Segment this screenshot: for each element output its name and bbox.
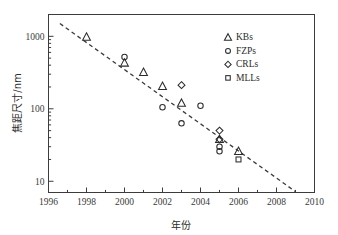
legend-label-kbs: KBs <box>236 32 253 42</box>
chart-figure: 101001000 199619982000200220042006200820… <box>0 0 338 235</box>
legend-label-mlls: MLLs <box>236 73 260 83</box>
x-tick-label: 2000 <box>115 197 134 207</box>
legend-label-fzps: FZPs <box>236 46 256 56</box>
scatter-plot: 101001000 199619982000200220042006200820… <box>0 0 338 235</box>
y-tick-label: 10 <box>35 177 45 187</box>
x-tick-label: 2008 <box>267 197 286 207</box>
x-tick-label: 1996 <box>39 197 58 207</box>
x-tick-label: 1998 <box>77 197 96 207</box>
y-tick-label: 1000 <box>26 32 45 42</box>
y-axis-title: 焦距尺寸/nm <box>11 73 23 132</box>
x-tick-label: 2006 <box>229 197 248 207</box>
y-tick-label: 100 <box>30 104 45 114</box>
legend-label-crls: CRLs <box>236 59 258 69</box>
x-tick-label: 2010 <box>305 197 324 207</box>
x-axis-title: 年份 <box>171 219 191 231</box>
x-tick-label: 2004 <box>191 197 210 207</box>
x-tick-label: 2002 <box>153 197 172 207</box>
